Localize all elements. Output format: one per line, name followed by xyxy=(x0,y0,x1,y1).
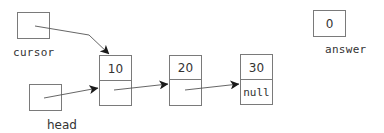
node-20-data: 20 xyxy=(178,61,193,75)
variable-head: head xyxy=(30,85,77,133)
answer-value: 0 xyxy=(326,17,334,31)
cursor-label: cursor xyxy=(13,46,55,59)
node-30-next: null xyxy=(243,86,270,99)
list-node-20: 20 xyxy=(170,56,202,106)
list-node-30: 30 null xyxy=(241,55,273,105)
variable-cursor: cursor xyxy=(13,13,55,60)
variable-answer: 0 answer xyxy=(314,11,367,57)
node-10-data: 10 xyxy=(108,62,123,76)
answer-label: answer xyxy=(325,43,367,56)
head-label: head xyxy=(47,118,77,132)
linked-list-diagram: cursor head 0 answer 10 20 30 null xyxy=(0,0,384,133)
list-node-10: 10 xyxy=(100,56,132,106)
node-30-data: 30 xyxy=(249,61,264,75)
cursor-box xyxy=(18,13,50,39)
